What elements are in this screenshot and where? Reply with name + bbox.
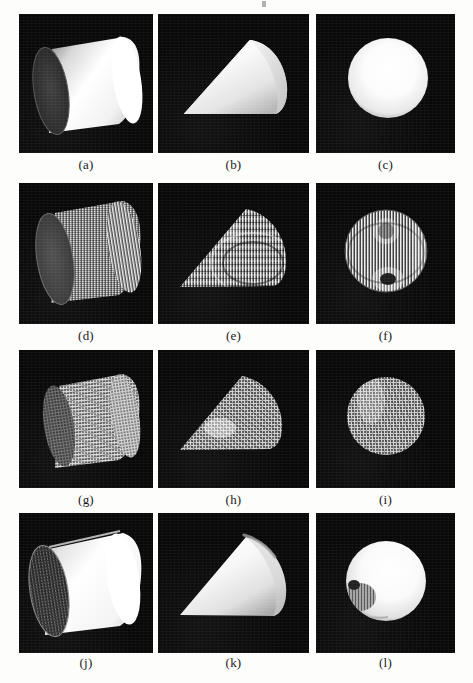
shape-cone-striped [158,183,309,324]
render-image-cylinder-smooth [19,14,153,153]
figure-panel-c[interactable]: (c) [316,14,455,153]
caption-e: (e) [158,329,309,343]
caption-a: (a) [19,158,153,172]
figure-panel-i[interactable]: (i) [316,350,455,488]
figure-panel-h[interactable]: (h) [158,350,309,488]
shape-cone-speckled [158,350,309,488]
render-image-cone-speckled [158,350,309,488]
render-image-cylinder-striped [19,183,153,324]
figure-panel-a[interactable]: (a) [19,14,153,153]
figure-panel-e[interactable]: (e) [158,183,309,324]
render-image-cone-recovered [158,513,309,653]
figure-panel-d[interactable]: (d) [19,183,153,324]
figure-panel-f[interactable]: (f) [316,183,455,324]
shape-cylinder-striped [19,183,153,324]
render-image-cone-striped [158,183,309,324]
shape-cylinder-recovered [19,513,153,653]
shape-cone-recovered [158,513,309,653]
render-image-sphere-smooth [316,14,455,153]
caption-b: (b) [158,158,309,172]
caption-g: (g) [19,493,153,507]
shape-sphere-speckled [316,350,455,488]
shape-cylinder-smooth [19,14,153,153]
shape-sphere-smooth [316,14,455,153]
caption-l: (l) [316,656,455,670]
render-image-cylinder-speckled [19,350,153,488]
render-image-sphere-recovered [316,513,455,653]
caption-d: (d) [19,329,153,343]
caption-c: (c) [316,158,455,172]
shape-sphere-recovered [316,513,455,653]
figure-panel-b[interactable]: (b) [158,14,309,153]
caption-k: (k) [158,656,309,670]
page-top-artifact [262,1,266,7]
shape-cone-smooth [158,14,309,153]
render-image-cone-smooth [158,14,309,153]
figure-panel-j[interactable]: (j) [19,513,153,653]
caption-h: (h) [158,493,309,507]
render-image-sphere-striped [316,183,455,324]
figure-panel-g[interactable]: (g) [19,350,153,488]
caption-f: (f) [316,329,455,343]
caption-j: (j) [19,656,153,670]
figure-panel-k[interactable]: (k) [158,513,309,653]
render-image-cylinder-recovered [19,513,153,653]
render-image-sphere-speckled [316,350,455,488]
shape-cylinder-speckled [19,350,153,488]
figure-panel-l[interactable]: (l) [316,513,455,653]
shape-sphere-striped [316,183,455,324]
figure-grid: (a) [0,0,473,683]
caption-i: (i) [316,493,455,507]
